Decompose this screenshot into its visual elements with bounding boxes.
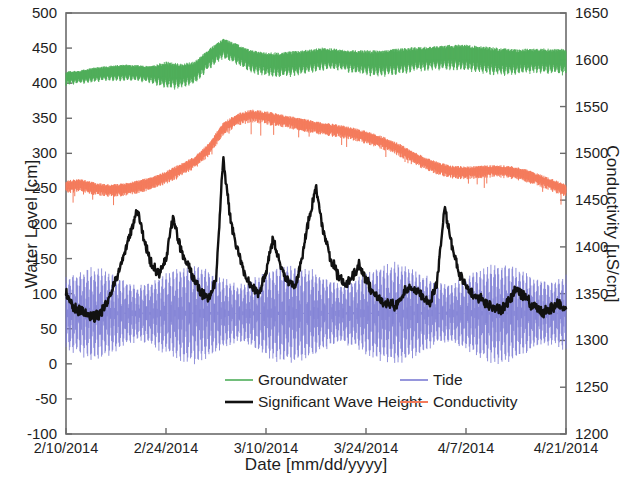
- svg-text:1650: 1650: [575, 4, 608, 21]
- svg-text:-50: -50: [35, 390, 57, 407]
- svg-text:4/21/2014: 4/21/2014: [534, 440, 599, 456]
- svg-text:1550: 1550: [575, 98, 608, 115]
- svg-text:2/10/2014: 2/10/2014: [34, 440, 99, 456]
- svg-text:3/24/2014: 3/24/2014: [334, 440, 399, 456]
- svg-text:1500: 1500: [575, 144, 608, 161]
- legend-label-tide: Tide: [433, 371, 463, 388]
- svg-text:1250: 1250: [575, 378, 608, 395]
- svg-text:4/7/2014: 4/7/2014: [438, 440, 494, 456]
- svg-text:450: 450: [32, 39, 57, 56]
- chart-figure: Water Level [cm] Conductivity [µS/cm] Da…: [0, 0, 633, 481]
- svg-text:150: 150: [32, 250, 57, 267]
- svg-text:50: 50: [40, 320, 57, 337]
- svg-text:1450: 1450: [575, 191, 608, 208]
- svg-text:3/10/2014: 3/10/2014: [234, 440, 299, 456]
- svg-text:1600: 1600: [575, 51, 608, 68]
- svg-text:1300: 1300: [575, 331, 608, 348]
- svg-text:250: 250: [32, 179, 57, 196]
- legend-label-groundwater: Groundwater: [258, 371, 348, 388]
- svg-text:350: 350: [32, 109, 57, 126]
- legend-label-conductivity: Conductivity: [433, 393, 518, 410]
- chart-legend: GroundwaterTideSignificant Wave HeightCo…: [225, 371, 518, 410]
- series-tide: [66, 262, 566, 364]
- y-axis-left-tick-labels: 500450400350300250200150100500-50-100: [27, 4, 57, 442]
- svg-text:0: 0: [49, 355, 57, 372]
- plot-canvas: 500450400350300250200150100500-50-100 16…: [0, 0, 633, 481]
- svg-text:200: 200: [32, 215, 57, 232]
- y-axis-right-tick-labels: 1650160015501500145014001350130012501200: [575, 4, 608, 442]
- svg-text:500: 500: [32, 4, 57, 21]
- series-groundwater: [66, 39, 566, 90]
- svg-text:300: 300: [32, 144, 57, 161]
- legend-label-significant-wave-height: Significant Wave Height: [258, 393, 423, 410]
- svg-text:2/24/2014: 2/24/2014: [134, 440, 199, 456]
- svg-text:1350: 1350: [575, 285, 608, 302]
- svg-text:1400: 1400: [575, 238, 608, 255]
- svg-text:400: 400: [32, 74, 57, 91]
- svg-text:100: 100: [32, 285, 57, 302]
- x-axis-tick-labels: 2/10/20142/24/20143/10/20143/24/20144/7/…: [34, 440, 599, 456]
